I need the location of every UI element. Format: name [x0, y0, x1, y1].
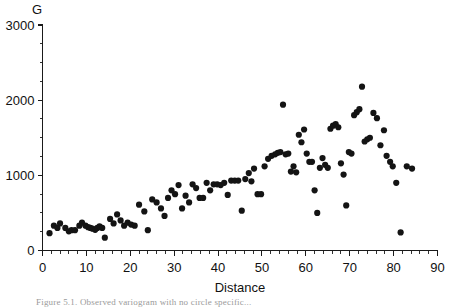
data-point	[246, 170, 252, 176]
data-point	[186, 199, 192, 205]
x-tick-label: 20	[123, 260, 137, 275]
y-tick-label: 0	[27, 243, 34, 258]
data-point	[261, 163, 267, 169]
data-point	[225, 192, 231, 198]
data-point	[111, 220, 117, 226]
data-point	[141, 208, 147, 214]
data-point	[175, 182, 181, 188]
x-axis-title: Distance	[215, 280, 266, 295]
data-point	[207, 187, 213, 193]
data-point	[340, 171, 346, 177]
data-point	[158, 205, 164, 211]
data-point	[179, 205, 185, 211]
data-point	[290, 163, 296, 169]
x-tick-label: 60	[299, 260, 313, 275]
data-point	[145, 227, 151, 233]
data-point	[251, 165, 257, 171]
data-point	[356, 106, 362, 112]
data-point	[285, 150, 291, 156]
data-point	[367, 135, 373, 141]
x-tick-label: 0	[39, 260, 46, 275]
data-point	[193, 185, 199, 191]
x-tick-label: 70	[342, 260, 356, 275]
data-point	[99, 225, 105, 231]
data-point	[298, 139, 304, 145]
figure-caption: Figure 5.1. Observed variogram with no c…	[36, 299, 456, 307]
data-point	[204, 180, 210, 186]
data-point	[161, 213, 167, 219]
data-point	[242, 176, 248, 182]
x-tick-label: 10	[79, 260, 93, 275]
data-point	[200, 195, 206, 201]
data-point	[221, 180, 227, 186]
data-point	[370, 110, 376, 116]
data-point	[154, 199, 160, 205]
data-point	[393, 180, 399, 186]
figure-caption-strip: Figure 5.1. Observed variogram with no c…	[0, 299, 471, 308]
data-point	[398, 229, 404, 235]
y-axis-tick-labels: 0100020003000	[6, 18, 35, 259]
data-point	[374, 115, 380, 121]
data-point	[377, 142, 383, 148]
data-point	[304, 150, 310, 156]
data-point	[46, 230, 52, 236]
y-tick-label: 2000	[6, 93, 35, 108]
data-point	[343, 202, 349, 208]
data-point	[118, 217, 124, 223]
data-point	[317, 165, 323, 171]
data-point	[348, 150, 354, 156]
data-points	[46, 84, 415, 241]
data-point	[136, 202, 142, 208]
data-point	[235, 177, 241, 183]
data-point	[57, 220, 63, 226]
y-tick-label: 1000	[6, 168, 35, 183]
data-point	[383, 153, 389, 159]
data-point	[172, 191, 178, 197]
y-tick-label: 3000	[6, 18, 35, 33]
data-point	[239, 208, 245, 214]
x-tick-label: 40	[211, 260, 225, 275]
axes	[42, 24, 438, 251]
data-point	[280, 102, 286, 108]
data-point	[314, 210, 320, 216]
figure-container: 0100020003000 0102030405060708090 G Dist…	[0, 0, 471, 308]
scatter-plot: 0100020003000 0102030405060708090 G Dist…	[0, 0, 471, 308]
data-point	[381, 127, 387, 133]
data-point	[325, 165, 331, 171]
data-point	[288, 168, 294, 174]
x-tick-label: 90	[430, 260, 444, 275]
x-tick-label: 80	[386, 260, 400, 275]
data-point	[296, 132, 302, 138]
y-axis-title: G	[32, 2, 42, 17]
data-point	[338, 160, 344, 166]
x-tick-label: 50	[255, 260, 269, 275]
data-point	[182, 193, 188, 199]
x-tick-label: 30	[167, 260, 181, 275]
data-point	[312, 187, 318, 193]
data-point	[335, 124, 341, 130]
data-point	[165, 195, 171, 201]
y-axis-ticks	[38, 25, 43, 251]
data-point	[102, 235, 108, 241]
data-point	[248, 178, 254, 184]
data-point	[114, 211, 120, 217]
data-point	[293, 169, 299, 175]
data-point	[132, 223, 138, 229]
x-axis-tick-labels: 0102030405060708090	[39, 260, 445, 275]
data-point	[258, 191, 264, 197]
data-point	[301, 126, 307, 132]
data-point	[319, 155, 325, 161]
x-axis-ticks	[43, 251, 438, 256]
data-point	[359, 84, 365, 90]
data-point	[309, 159, 315, 165]
data-point	[72, 227, 78, 233]
data-point	[390, 163, 396, 169]
data-point	[409, 165, 415, 171]
